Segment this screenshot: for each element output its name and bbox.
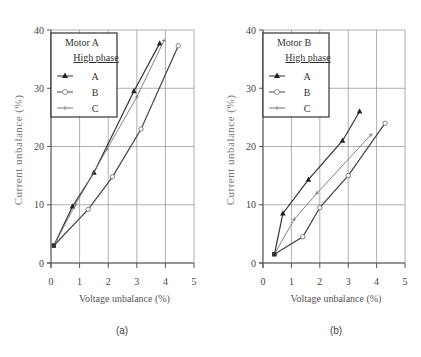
x-tick-label: 5 <box>192 276 197 287</box>
y-tick-label: 10 <box>34 199 44 210</box>
x-tick-label: 1 <box>289 276 294 287</box>
circle-marker-icon <box>86 207 90 211</box>
legend-title: Motor B <box>277 37 312 48</box>
y-tick-label: 40 <box>34 25 44 36</box>
panel-caption: (a) <box>116 325 128 336</box>
x-tick-label: 4 <box>163 276 168 287</box>
y-tick-label: 40 <box>246 25 256 36</box>
x-tick-label: 3 <box>134 276 139 287</box>
x-tick-label: 2 <box>317 276 322 287</box>
legend-label: A <box>303 71 311 82</box>
legend-subtitle: High phase <box>285 52 331 63</box>
legend-title: Motor A <box>65 37 100 48</box>
legend-label: C <box>92 103 99 114</box>
y-tick-label: 0 <box>39 258 44 269</box>
circle-marker-icon <box>301 235 305 239</box>
circle-marker-icon <box>346 173 350 177</box>
start-marker-icon <box>52 244 56 248</box>
x-tick-label: 4 <box>374 276 379 287</box>
chart-panel-b: 012345010203040Voltage unbalance (%)Curr… <box>224 25 408 337</box>
plus-marker-icon <box>135 95 139 99</box>
y-axis-title: Current unbalance (%) <box>12 95 25 206</box>
circle-marker-icon <box>110 175 114 179</box>
circle-marker-icon <box>176 44 180 48</box>
legend-label: B <box>304 87 311 98</box>
legend-label: A <box>91 71 99 82</box>
figure: 012345010203040Voltage unbalance (%)Curr… <box>0 0 421 357</box>
circle-marker-icon <box>383 121 387 125</box>
x-tick-label: 5 <box>403 276 408 287</box>
x-tick-label: 2 <box>106 276 111 287</box>
y-tick-label: 30 <box>246 83 256 94</box>
series-c <box>272 133 373 256</box>
circle-marker-icon <box>139 127 143 131</box>
y-tick-label: 20 <box>246 141 256 152</box>
triangle-marker-icon <box>357 108 363 113</box>
y-tick-label: 20 <box>34 141 44 152</box>
chart-panel-a: 012345010203040Voltage unbalance (%)Curr… <box>12 25 197 337</box>
circle-marker-icon <box>275 90 280 95</box>
legend-label: C <box>304 103 311 114</box>
panel-caption: (b) <box>330 325 342 336</box>
x-tick-label: 3 <box>346 276 351 287</box>
legend-subtitle: High phase <box>73 52 119 63</box>
x-axis-title: Voltage unbalance (%) <box>291 293 382 305</box>
legend: Motor BHigh phaseABC <box>263 33 331 117</box>
x-tick-label: 0 <box>49 276 54 287</box>
y-tick-label: 10 <box>246 199 256 210</box>
series-b <box>272 121 387 256</box>
start-marker-icon <box>272 252 276 256</box>
x-tick-label: 1 <box>77 276 82 287</box>
y-tick-label: 0 <box>251 258 256 269</box>
legend: Motor AHigh phaseABC <box>51 33 119 117</box>
circle-marker-icon <box>318 205 322 209</box>
circle-marker-icon <box>63 90 68 95</box>
x-axis-title: Voltage unbalance (%) <box>79 293 170 305</box>
x-tick-label: 0 <box>261 276 266 287</box>
legend-label: B <box>92 87 99 98</box>
y-axis-title: Current unbalance (%) <box>224 95 237 206</box>
y-tick-label: 30 <box>34 83 44 94</box>
